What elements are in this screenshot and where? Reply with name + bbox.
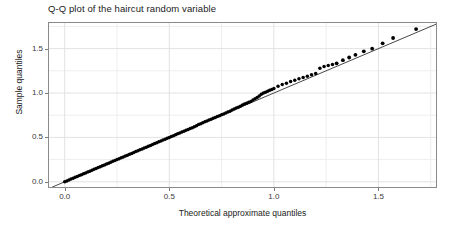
- y-axis-label: Sample quantiles: [14, 22, 24, 142]
- data-point: [414, 27, 418, 31]
- qq-plot-figure: Q-Q plot of the haircut random variable …: [0, 0, 460, 227]
- y-tick-label: 1.5: [19, 44, 43, 53]
- data-point: [289, 80, 293, 84]
- data-point: [301, 76, 305, 80]
- data-point: [285, 82, 289, 86]
- x-tick-label: 0.0: [53, 192, 77, 201]
- y-tick-label: 1.0: [19, 88, 43, 97]
- plot-area-svg: [48, 22, 437, 188]
- x-tick-mark: [169, 188, 170, 191]
- x-tick-label: 1.0: [262, 192, 286, 201]
- data-point: [341, 58, 345, 62]
- data-point: [272, 87, 276, 91]
- data-point: [280, 83, 284, 87]
- x-tick-label: 1.5: [366, 192, 390, 201]
- data-point: [322, 65, 326, 69]
- data-point: [318, 66, 322, 70]
- data-point: [331, 63, 335, 67]
- y-tick-label: 0.0: [19, 177, 43, 186]
- x-tick-mark: [65, 188, 66, 191]
- x-tick-label: 0.5: [157, 192, 181, 201]
- data-point: [347, 56, 351, 60]
- data-point: [314, 72, 318, 76]
- y-tick-label: 0.5: [19, 132, 43, 141]
- data-point: [327, 64, 331, 68]
- data-point: [293, 78, 297, 82]
- data-point: [297, 77, 301, 81]
- data-point: [381, 41, 385, 45]
- data-point: [370, 47, 374, 51]
- data-point: [310, 73, 314, 77]
- x-axis-label: Theoretical approximate quantiles: [48, 208, 437, 218]
- data-point: [335, 61, 339, 65]
- x-tick-mark: [274, 188, 275, 191]
- x-tick-mark: [378, 188, 379, 191]
- data-point: [362, 49, 366, 53]
- data-point: [306, 74, 310, 78]
- data-point: [276, 85, 280, 89]
- page-title: Q-Q plot of the haircut random variable: [48, 3, 216, 14]
- data-point: [354, 53, 358, 57]
- data-point: [391, 36, 395, 40]
- plot-panel: [48, 22, 437, 188]
